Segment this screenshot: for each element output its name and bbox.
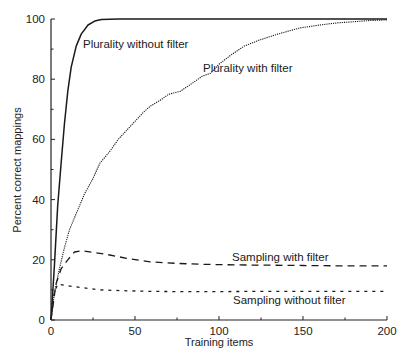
series-label: Plurality with filter xyxy=(203,62,293,74)
x-ticks: 050100150200 xyxy=(48,316,397,337)
x-axis-title: Training items xyxy=(185,336,254,348)
y-tick-label: 100 xyxy=(26,13,45,25)
y-tick-label: 20 xyxy=(32,254,45,266)
series-label: Plurality without filter xyxy=(83,38,189,50)
series-line-sampling-with-filter xyxy=(51,251,387,320)
x-tick-label: 200 xyxy=(377,325,396,337)
y-axis-title: Percent correct mappings xyxy=(11,107,23,233)
x-tick-label: 50 xyxy=(129,325,142,337)
x-tick-label: 0 xyxy=(48,325,54,337)
series-label: Sampling without filter xyxy=(233,294,346,306)
y-tick-label: 60 xyxy=(32,133,45,145)
line-chart: 050100150200 020406080100 Training items… xyxy=(0,0,409,361)
y-tick-label: 80 xyxy=(32,73,45,85)
y-tick-label: 0 xyxy=(39,314,45,326)
series-label: Sampling with filter xyxy=(232,251,329,263)
y-tick-label: 40 xyxy=(32,194,45,206)
x-tick-label: 150 xyxy=(293,325,312,337)
